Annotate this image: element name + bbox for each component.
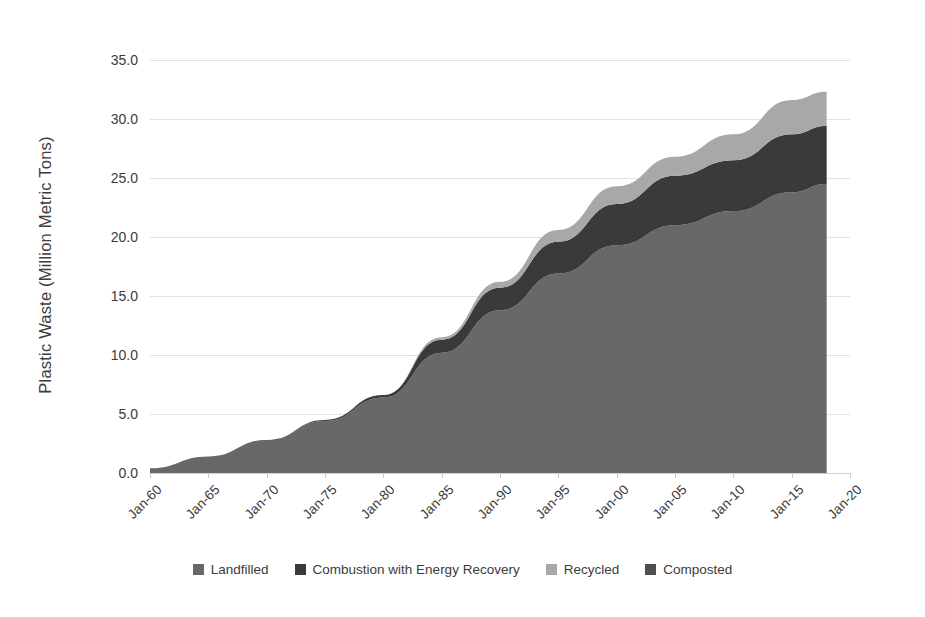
legend-label: Composted: [663, 562, 732, 577]
x-axis-tick: [500, 473, 501, 478]
y-axis-tick-label: 5.0: [80, 406, 138, 422]
stacked-area-plot: [150, 60, 850, 473]
x-axis-tick-label: Jan-80: [358, 482, 398, 522]
y-axis-tick-label: 15.0: [80, 288, 138, 304]
legend-label: Landfilled: [211, 562, 269, 577]
y-axis-tick-label: 30.0: [80, 111, 138, 127]
legend-label: Combustion with Energy Recovery: [313, 562, 520, 577]
x-axis-tick-label: Jan-95: [533, 482, 573, 522]
area-series: [150, 184, 827, 473]
legend-swatch-icon: [645, 564, 656, 575]
x-axis-tick: [558, 473, 559, 478]
x-axis-tick: [617, 473, 618, 478]
legend-swatch-icon: [546, 564, 557, 575]
legend-swatch-icon: [193, 564, 204, 575]
x-axis-tick: [733, 473, 734, 478]
x-axis-tick-label: Jan-00: [591, 482, 631, 522]
chart-legend: LandfilledCombustion with Energy Recover…: [0, 562, 925, 577]
legend-item[interactable]: Recycled: [546, 562, 620, 577]
x-axis-tick: [150, 473, 151, 478]
legend-item[interactable]: Composted: [645, 562, 732, 577]
chart-container: Plastic Waste (Million Metric Tons) 0.05…: [0, 0, 925, 617]
legend-item[interactable]: Combustion with Energy Recovery: [295, 562, 520, 577]
x-axis-tick-label: Jan-10: [708, 482, 748, 522]
y-axis-tick-label: 25.0: [80, 170, 138, 186]
x-axis-tick-label: Jan-65: [183, 482, 223, 522]
x-axis-tick-label: Jan-75: [300, 482, 340, 522]
x-axis-tick-label: Jan-20: [825, 482, 865, 522]
y-axis-title: Plastic Waste (Million Metric Tons): [22, 30, 68, 500]
x-axis-tick-label: Jan-90: [475, 482, 515, 522]
x-axis-tick: [208, 473, 209, 478]
y-axis-tick-label: 10.0: [80, 347, 138, 363]
x-axis-tick: [442, 473, 443, 478]
x-axis-tick-label: Jan-05: [650, 482, 690, 522]
x-axis-tick: [792, 473, 793, 478]
x-axis-tick: [675, 473, 676, 478]
plot-area: [150, 60, 850, 473]
y-axis-tick-label: 35.0: [80, 52, 138, 68]
y-axis-tick-label: 0.0: [80, 465, 138, 481]
x-axis-tick-label: Jan-15: [766, 482, 806, 522]
legend-item[interactable]: Landfilled: [193, 562, 269, 577]
x-axis-tick: [267, 473, 268, 478]
legend-label: Recycled: [564, 562, 620, 577]
x-axis-tick: [383, 473, 384, 478]
y-axis-tick-label: 20.0: [80, 229, 138, 245]
x-axis-tick: [850, 473, 851, 478]
x-axis-tick-label: Jan-60: [125, 482, 165, 522]
x-axis-tick-label: Jan-85: [416, 482, 456, 522]
legend-swatch-icon: [295, 564, 306, 575]
x-axis-tick: [325, 473, 326, 478]
x-axis-tick-label: Jan-70: [241, 482, 281, 522]
